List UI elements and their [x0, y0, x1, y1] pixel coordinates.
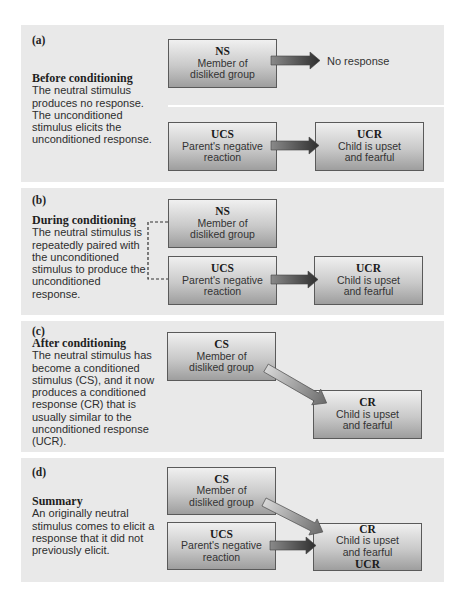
ns-box: NS Member of disliked group: [168, 39, 277, 88]
cr-box: CR Child is upset and fearful: [313, 390, 422, 439]
divider: [168, 105, 444, 107]
panel-title: Summary: [32, 495, 157, 507]
ns-abbr: NS: [169, 46, 276, 58]
cs-box: CS Member of disliked group: [167, 332, 276, 381]
ucs-line2: reaction: [169, 286, 276, 298]
cr-line2: and fearful: [314, 547, 421, 559]
cr-line2: and fearful: [314, 420, 421, 432]
ucs-box: UCS Parent's negative reaction: [168, 122, 277, 171]
cs-line2: disliked group: [168, 497, 275, 509]
panel-label: (d): [32, 466, 46, 478]
panel-label: (b): [32, 194, 46, 206]
cr-ucr-box: CR Child is upset and fearful UCR: [313, 523, 422, 571]
ucr-line2: and fearful: [315, 286, 422, 298]
panel-description-text: The neutral stimulus produces no respons…: [32, 84, 152, 145]
panel-title: Before conditioning: [32, 72, 157, 84]
cs-abbr: CS: [168, 339, 275, 351]
panel-description-text: An originally neutral stimulus comes to …: [32, 507, 154, 556]
ucs-line2: reaction: [168, 552, 275, 564]
panel-description-text: The neutral stimulus is repeatedly paire…: [32, 226, 146, 299]
ucr-box: UCR Child is upset and fearful: [315, 122, 424, 171]
ucs-box: UCS Parent's negative reaction: [168, 256, 277, 305]
ns-line2: disliked group: [169, 229, 276, 241]
panel-label: (a): [32, 34, 45, 46]
ucr-abbr: UCR: [314, 559, 421, 571]
cr-abbr: CR: [314, 397, 421, 409]
cs-box: CS Member of disliked group: [167, 467, 276, 515]
ns-abbr: NS: [169, 206, 276, 218]
ucr-abbr: UCR: [315, 263, 422, 275]
ucs-abbr: UCS: [169, 263, 276, 275]
ns-box: NS Member of disliked group: [168, 199, 277, 248]
panel-description: During conditioning The neutral stimulus…: [32, 214, 147, 300]
panel-title: During conditioning: [32, 214, 147, 226]
ucr-box: UCR Child is upset and fearful: [314, 256, 423, 305]
ucs-box: UCS Parent's negative reaction: [167, 522, 276, 570]
no-response-label: No response: [327, 55, 389, 67]
panel-description: After conditioning The neutral stimulus …: [32, 337, 160, 448]
panel-description-text: The neutral stimulus has become a condit…: [32, 349, 154, 447]
ns-line2: disliked group: [169, 69, 276, 81]
panel-description: Summary An originally neutral stimulus c…: [32, 495, 157, 556]
panel-title: After conditioning: [32, 337, 160, 349]
ucs-abbr: UCS: [169, 129, 276, 141]
panel-description: Before conditioning The neutral stimulus…: [32, 72, 157, 146]
ucs-line2: reaction: [169, 152, 276, 164]
ucr-abbr: UCR: [316, 129, 423, 141]
ucr-line2: and fearful: [316, 152, 423, 164]
cs-line2: disliked group: [168, 362, 275, 374]
